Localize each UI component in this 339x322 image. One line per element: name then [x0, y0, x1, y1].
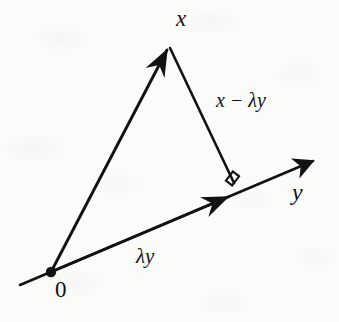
residual-vector [170, 48, 234, 183]
label-lambda-y: λy [136, 246, 154, 267]
x-vector [51, 50, 167, 272]
label-origin: 0 [55, 278, 67, 301]
label-x: x [176, 7, 186, 30]
origin-dot [46, 267, 56, 277]
vector-projection-figure: x y 0 λy x − λy [0, 0, 339, 322]
label-x-minus-lambda-y: x − λy [216, 90, 266, 110]
label-y: y [292, 180, 303, 204]
diagram-canvas [0, 0, 339, 322]
